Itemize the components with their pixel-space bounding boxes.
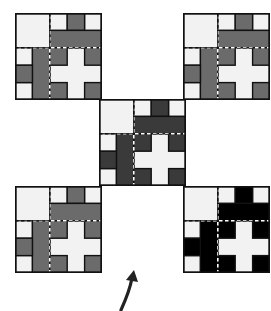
piece (218, 203, 270, 220)
tile-bottom-left (15, 186, 102, 273)
piece (218, 221, 235, 238)
piece (151, 99, 168, 116)
piece (253, 48, 270, 65)
piece (99, 151, 116, 168)
piece (183, 65, 200, 82)
piece (50, 221, 67, 238)
piece (67, 186, 84, 203)
piece (253, 256, 270, 273)
piece (15, 238, 32, 255)
tile-bottom-right (183, 186, 270, 273)
piece (218, 48, 235, 65)
piece (253, 221, 270, 238)
piece (67, 13, 84, 30)
piece (253, 83, 270, 100)
piece (200, 221, 217, 273)
piece (218, 83, 235, 100)
piece (169, 134, 186, 151)
piece (134, 134, 151, 151)
piece (85, 48, 102, 65)
piece (85, 256, 102, 273)
tile-center (99, 99, 186, 186)
piece (85, 83, 102, 100)
piece (50, 203, 102, 220)
piece (218, 30, 270, 47)
piece (183, 238, 200, 255)
piece (50, 256, 67, 273)
piece (200, 48, 217, 100)
piece (50, 30, 102, 47)
piece (85, 221, 102, 238)
tile-top-left (15, 13, 102, 100)
piece (134, 116, 186, 133)
piece (169, 169, 186, 186)
piece (50, 83, 67, 100)
piece (218, 256, 235, 273)
piece (32, 221, 49, 273)
piece (15, 65, 32, 82)
piece (134, 169, 151, 186)
piece (235, 186, 252, 203)
tile-top-right (183, 13, 270, 100)
piece (32, 48, 49, 100)
curved-up-arrow-icon (110, 265, 150, 311)
piece (116, 134, 133, 186)
piece (235, 13, 252, 30)
piece (50, 48, 67, 65)
